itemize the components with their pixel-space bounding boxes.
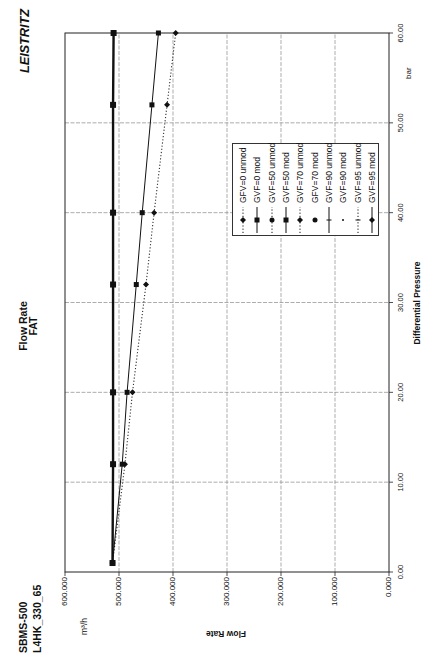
y-tick-label: 200.000 [276,577,286,617]
legend-label: GFV=0 unmod [238,147,248,203]
square-marker-icon [284,218,289,223]
legend-label: GVF=70 unmod [295,143,305,203]
legend-circle-icon [310,207,320,233]
pump-code: L4HK_330_65 [30,585,44,653]
square-marker-icon [110,461,116,467]
series-line [110,31,161,566]
legend-item: GVF=0 mod [250,144,264,235]
square-marker-icon [149,102,154,107]
y-tick-label: 0.000 [384,577,394,617]
legend-line-square-icon [252,207,262,233]
legend-item: GFV=0 unmod [236,144,250,235]
diamond-marker-icon [151,210,157,216]
legend-line-diamond-icon [367,207,377,233]
legend-item: GVF=90 unmod [322,144,336,235]
y-tick-label: 100.000 [330,577,340,617]
diamond-marker-icon [164,102,170,108]
legend-label: GVF=50 unmod [267,143,277,203]
legend-item: GVF=70 unmod [293,144,307,235]
square-marker-icon [110,282,116,288]
x-tick-label: 30.00 [396,285,405,321]
x-tick-label: 0.00 [396,554,405,590]
plot-area [0,0,434,663]
y-tick-label: 600.000 [60,577,70,617]
legend-line-bar-icon [324,207,334,233]
diamond-marker-icon [143,282,149,288]
square-marker-icon [110,560,116,566]
legend-item: GVF=90 mod [336,144,350,235]
x-tick-label: 50.00 [396,105,405,141]
brand-logo-text: LEISTRITZ [17,9,32,73]
square-marker-icon [111,30,117,36]
square-marker-icon [125,390,130,395]
square-marker-icon [255,218,260,223]
y-tick-label: 500.000 [114,577,124,617]
x-axis-label: Differential Pressure [412,243,422,363]
circle-marker-icon [269,218,274,223]
legend: GFV=0 unmod GVF=0 mod GVF=50 unmod GVF=5… [232,143,379,236]
legend-label: GVF=90 unmod [324,143,334,203]
diamond-marker-icon [130,389,136,395]
y-tick-label: 400.000 [168,577,178,617]
legend-label: GVF=95 mod [367,152,377,203]
legend-item: GVF=50 unmod [265,144,279,235]
legend-label: GVF=95 unmod [353,143,363,203]
x-tick-label: 60.00 [396,15,405,51]
square-marker-icon [110,102,116,108]
pump-model: SBMS-500 [16,585,30,653]
pump-identifier: SBMS-500 L4HK_330_65 [16,585,44,653]
legend-label: GFV=70 mod [310,152,320,203]
legend-dot-icon [338,207,348,233]
legend-item: GVF=50 mod [279,144,293,235]
x-tick-label: 10.00 [396,464,405,500]
diamond-marker-icon [173,30,179,36]
legend-label: GVF=50 mod [281,152,291,203]
legend-item: GFV=70 mod [307,144,321,235]
square-marker-icon [110,210,116,216]
legend-line-diamond-icon [238,207,248,233]
y-axis-unit: m³/h [79,618,89,635]
square-marker-icon [120,462,125,467]
legend-item: GVF=95 unmod [350,144,364,235]
legend-line-diamond-icon [295,207,305,233]
chart-title: Flow Rate FAT [18,266,38,386]
square-marker-icon [110,389,116,395]
data-series [110,30,179,566]
x-axis-unit: bar [404,67,413,79]
y-axis-label: Flow Rate [196,628,256,640]
series-line [110,30,117,566]
diamond-marker-icon [297,217,303,223]
legend-label: GVF=90 mod [338,152,348,203]
x-tick-label: 20.00 [396,374,405,410]
legend-label: GVF=0 mod [252,157,262,203]
dot-marker-icon [342,219,344,221]
square-marker-icon [140,210,145,215]
legend-line-square-icon [281,207,291,233]
square-marker-icon [134,282,139,287]
square-marker-icon [156,31,161,36]
diamond-marker-icon [369,217,375,223]
circle-marker-icon [312,218,317,223]
rotated-chart-sheet: LEISTRITZ Flow Rate FAT SBMS-500 L4HK_33… [0,0,434,663]
x-tick-label: 40.00 [396,195,405,231]
y-tick-label: 300.000 [222,577,232,617]
legend-line-circle-icon [267,207,277,233]
legend-item: GVF=95 mod [365,144,379,235]
legend-line-bar-icon [353,207,363,233]
chart-title-line-2: FAT [28,266,38,386]
diamond-marker-icon [240,217,246,223]
